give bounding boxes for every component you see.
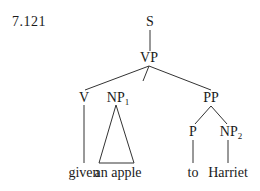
node-np1-subscript: 1 <box>125 97 130 107</box>
node-pp: PP <box>203 91 219 105</box>
node-np2-subscript: 2 <box>238 131 243 141</box>
leaf-an-apple: an apple <box>94 166 141 180</box>
syntax-tree-diagram: 7.121 S VP V NP1 PP P NP2 given an apple… <box>0 0 260 191</box>
example-number: 7.121 <box>12 15 46 29</box>
np1-triangle <box>99 105 134 163</box>
node-np1-label: NP <box>107 90 125 105</box>
edge-pp-np2 <box>211 106 227 124</box>
edge-pp-p <box>195 106 211 124</box>
node-np1: NP1 <box>107 91 129 109</box>
node-p: P <box>189 125 197 139</box>
edge-vp-pp <box>149 66 211 90</box>
node-vp: VP <box>140 51 158 65</box>
node-np2: NP2 <box>220 125 242 143</box>
leaf-to: to <box>188 166 199 180</box>
leaf-harriet: Harriet <box>208 166 248 180</box>
node-s: S <box>146 15 154 29</box>
edge-vp-v <box>85 66 149 90</box>
node-v: V <box>79 91 89 105</box>
node-np2-label: NP <box>220 124 238 139</box>
